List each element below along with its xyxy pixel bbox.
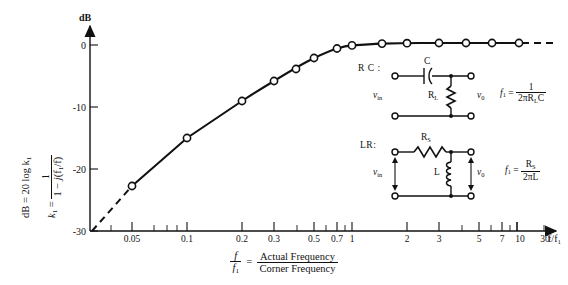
- x-axis-major-ticks: [132, 222, 517, 231]
- x-tick-label-0-05: 0.05: [124, 234, 141, 244]
- rc-capacitor-label: C: [424, 56, 430, 66]
- low-frequency-asymptote: [92, 186, 132, 231]
- x-axis-title-den-sub: 1: [557, 238, 560, 245]
- rc-formula-numerator: 1: [516, 82, 546, 92]
- caption-equals: =: [246, 256, 252, 267]
- rc-resistor-label: RL: [428, 90, 438, 101]
- data-point: [183, 134, 190, 141]
- y-tick-label-minus10: -10: [56, 102, 86, 113]
- caption-ratio-den: f1: [230, 261, 240, 275]
- data-point: [238, 97, 245, 104]
- data-point: [462, 39, 469, 46]
- data-point: [403, 40, 410, 47]
- bode-plot-figure: dB = 20 log k1 k1 = 1 1 − j(f1/f): [0, 0, 568, 285]
- lr-circuit-diagram: [392, 147, 474, 199]
- lr-vout-sub: 0: [481, 171, 484, 178]
- y-tick-label-0: 0: [64, 40, 86, 51]
- x-tick-label-0-1: 0.1: [181, 234, 193, 244]
- y-axis-ticks: [90, 45, 98, 231]
- lr-circuit-label: LR:: [360, 140, 376, 150]
- x-axis-title-num: f: [548, 233, 551, 244]
- lr-corner-frequency-formula: f1 = RS 2πL: [505, 159, 540, 182]
- x-tick-label-7: 7: [500, 234, 505, 244]
- y-axis-unit-label: dB: [79, 12, 91, 23]
- data-point: [333, 45, 340, 52]
- caption-definition-den: Corner Frequency: [257, 262, 337, 274]
- x-tick-label-3: 3: [437, 234, 442, 244]
- rc-vout-label: v0: [477, 90, 484, 101]
- data-point-markers: [128, 39, 522, 189]
- lr-resistor-sub: S: [427, 136, 431, 143]
- x-tick-label-0-3: 0.3: [268, 234, 280, 244]
- x-tick-label-1: 1: [350, 234, 355, 244]
- x-tick-label-2: 2: [405, 234, 410, 244]
- lr-vin-sub: in: [377, 171, 382, 178]
- x-tick-label-0-7: 0.7: [331, 234, 343, 244]
- lr-formula-num-sub: S: [532, 163, 536, 170]
- caption-ratio-num: f: [230, 250, 240, 261]
- rc-vin-sub: in: [377, 94, 382, 101]
- rc-circuit-label: R C :: [358, 63, 381, 73]
- x-tick-label-10: 10: [515, 234, 525, 244]
- rc-formula-fraction: 1 2πRLC: [516, 82, 546, 105]
- caption-inner: f f1 = Actual Frequency Corner Frequency: [230, 250, 337, 276]
- caption-definition-num: Actual Frequency: [257, 251, 337, 262]
- data-point: [515, 39, 522, 46]
- rc-vout-sub: 0: [481, 94, 484, 101]
- rc-resistor-sub: L: [434, 94, 438, 101]
- data-point: [378, 40, 385, 47]
- x-tick-label-0-5: 0.5: [308, 234, 320, 244]
- response-curve: [132, 43, 520, 186]
- lr-vin-label: vin: [373, 167, 382, 178]
- data-point: [292, 65, 299, 72]
- rc-corner-frequency-formula: f1 = 1 2πRLC: [500, 82, 546, 105]
- rc-formula-den-pre: 2πR: [518, 93, 534, 103]
- x-tick-label-5: 5: [477, 234, 482, 244]
- caption-definition-fraction: Actual Frequency Corner Frequency: [257, 251, 337, 275]
- lr-formula-fraction: RS 2πL: [521, 159, 540, 182]
- lr-resistor-label: RS: [421, 132, 431, 143]
- data-point: [128, 182, 135, 189]
- x-axis-title: f/f1: [548, 233, 561, 245]
- lr-vout-label: v0: [477, 167, 484, 178]
- rc-formula-denominator: 2πRLC: [516, 92, 546, 105]
- caption-ratio-fraction: f f1: [230, 250, 240, 276]
- data-point: [488, 39, 495, 46]
- data-point: [435, 39, 442, 46]
- figure-caption: f f1 = Actual Frequency Corner Frequency: [0, 250, 568, 276]
- caption-ratio-den-sub: 1: [235, 267, 239, 275]
- lr-formula-equals: =: [513, 165, 518, 175]
- x-tick-label-0-2: 0.2: [236, 234, 248, 244]
- data-point: [348, 42, 355, 49]
- rc-formula-lhs-sub: 1: [503, 91, 506, 98]
- lr-inductor-label: L: [434, 167, 440, 177]
- lr-formula-numerator: RS: [521, 159, 540, 171]
- lr-formula-lhs-sub: 1: [508, 168, 511, 175]
- rc-formula-den-post: C: [538, 93, 544, 103]
- y-tick-label-minus20: -20: [56, 164, 86, 175]
- y-tick-label-minus30: -30: [56, 226, 86, 237]
- data-point: [310, 54, 317, 61]
- rc-vin-label: vin: [373, 90, 382, 101]
- rc-formula-equals: =: [508, 88, 513, 98]
- data-point: [270, 77, 277, 84]
- lr-formula-den: 2πL: [521, 171, 540, 182]
